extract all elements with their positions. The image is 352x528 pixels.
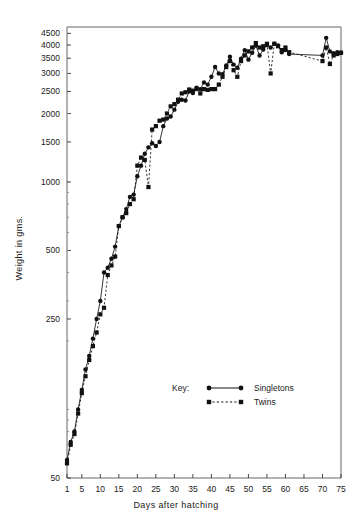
data-point-twins (194, 87, 198, 91)
data-point-singletons (146, 145, 150, 149)
plot-area (0, 0, 352, 528)
data-point-twins (335, 52, 339, 56)
data-point-twins (209, 87, 213, 91)
y-tick-label: 3000 (6, 68, 60, 78)
y-tick-label: 1000 (6, 177, 60, 187)
data-point-singletons (268, 45, 272, 49)
growth-chart-figure: Weight in gms. Days after hatching Key: … (0, 0, 352, 528)
y-tick-label: 2500 (6, 86, 60, 96)
legend-row-twins: Twins (172, 395, 294, 409)
y-tick-label: 4000 (6, 40, 60, 50)
data-point-twins (95, 330, 99, 334)
data-point-singletons (206, 82, 210, 86)
data-point-singletons (98, 299, 102, 303)
x-tick-label: 30 (170, 484, 179, 494)
x-tick-label: 10 (96, 484, 105, 494)
y-tick-label: 2000 (6, 109, 60, 119)
data-point-twins (265, 42, 269, 46)
data-point-twins (269, 71, 273, 75)
x-tick-label: 55 (262, 484, 271, 494)
data-point-twins (165, 111, 169, 115)
data-point-singletons (257, 53, 261, 57)
data-point-singletons (150, 141, 154, 145)
data-point-singletons (209, 75, 213, 79)
data-point-twins (235, 75, 239, 79)
data-point-singletons (168, 114, 172, 118)
data-point-singletons (135, 174, 139, 178)
data-point-twins (69, 443, 73, 447)
x-tick-label: 50 (244, 484, 253, 494)
data-point-singletons (87, 354, 91, 358)
data-point-singletons (324, 36, 328, 40)
data-point-twins (239, 59, 243, 63)
data-point-twins (217, 82, 221, 86)
x-tick-label: 40 (207, 484, 216, 494)
y-tick-label: 50 (6, 473, 60, 483)
data-point-twins (146, 185, 150, 189)
y-tick-label: 1500 (6, 137, 60, 147)
data-point-twins (287, 50, 291, 54)
data-point-twins (106, 273, 110, 277)
data-point-twins (157, 119, 161, 123)
data-point-twins (206, 88, 210, 92)
data-point-singletons (76, 407, 80, 411)
data-point-singletons (124, 207, 128, 211)
data-point-singletons (128, 195, 132, 199)
data-point-singletons (202, 80, 206, 84)
data-point-singletons (165, 116, 169, 120)
data-point-singletons (228, 55, 232, 59)
data-point-twins (113, 255, 117, 259)
data-point-twins (276, 44, 280, 48)
x-tick-label: 60 (281, 484, 290, 494)
data-point-twins (109, 263, 113, 267)
data-point-twins (132, 197, 136, 201)
x-axis-title: Days after hatching (0, 500, 352, 510)
data-point-twins (243, 53, 247, 57)
x-tick-label: 15 (114, 484, 123, 494)
x-tick-label: 1 (65, 484, 70, 494)
data-point-singletons (102, 270, 106, 274)
chart-legend: Key: Singletons Twins (172, 381, 294, 409)
x-tick-label: 35 (188, 484, 197, 494)
data-point-singletons (198, 87, 202, 91)
data-point-twins (328, 62, 332, 66)
x-tick-label: 20 (133, 484, 142, 494)
data-point-twins (320, 59, 324, 63)
data-point-twins (98, 312, 102, 316)
data-point-singletons (154, 144, 158, 148)
y-tick-label: 250 (6, 314, 60, 324)
data-point-twins (331, 53, 335, 57)
data-point-singletons (109, 257, 113, 261)
data-point-singletons (157, 140, 161, 144)
data-point-singletons (217, 71, 221, 75)
data-point-twins (280, 48, 284, 52)
x-tick-label: 75 (336, 484, 345, 494)
legend-label-twins: Twins (254, 397, 276, 407)
data-point-twins (228, 59, 232, 63)
legend-label-singletons: Singletons (254, 383, 294, 393)
plot-frame (67, 27, 341, 478)
data-point-twins (180, 91, 184, 95)
data-point-twins (83, 374, 87, 378)
data-point-twins (202, 87, 206, 91)
data-point-twins (139, 156, 143, 160)
data-point-twins (254, 41, 258, 45)
data-point-twins (246, 49, 250, 53)
data-point-twins (250, 45, 254, 49)
data-point-singletons (139, 163, 143, 167)
data-point-twins (150, 127, 154, 131)
data-point-singletons (180, 97, 184, 101)
data-point-twins (172, 102, 176, 106)
data-point-twins (65, 461, 69, 465)
data-point-singletons (231, 62, 235, 66)
data-point-twins (128, 202, 132, 206)
data-point-singletons (94, 317, 98, 321)
data-point-singletons (183, 98, 187, 102)
data-point-singletons (250, 51, 254, 55)
x-tick-label: 65 (299, 484, 308, 494)
data-point-twins (72, 432, 76, 436)
data-point-twins (154, 124, 158, 128)
data-point-singletons (143, 152, 147, 156)
data-point-twins (120, 215, 124, 219)
data-point-twins (176, 98, 180, 102)
